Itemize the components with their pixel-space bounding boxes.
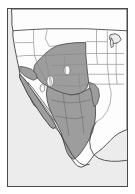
map-figure (0, 0, 135, 194)
map-frame-border (7, 8, 128, 187)
range-pocket-basin (40, 84, 45, 92)
north-america-map (8, 9, 127, 186)
